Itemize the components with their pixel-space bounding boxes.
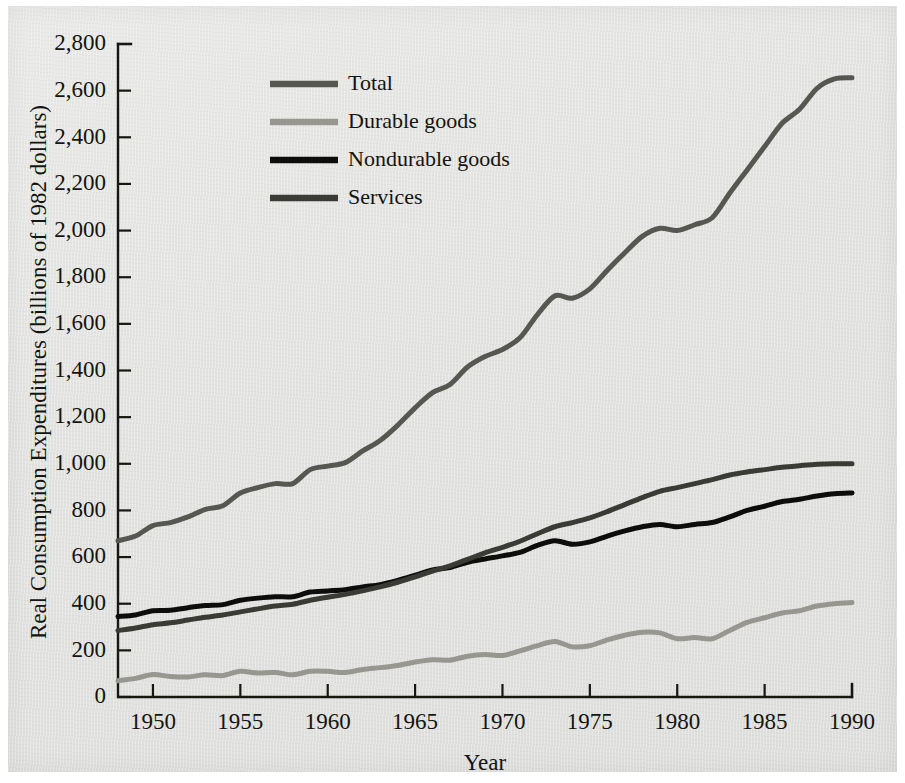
y-tick-label: 0 (95, 683, 107, 708)
x-axis-title: Year (464, 750, 507, 775)
y-tick-label: 1,600 (54, 310, 106, 335)
y-tick-label: 2,600 (54, 77, 106, 102)
y-tick-labels: 02004006008001,0001,2001,4001,6001,8002,… (54, 30, 106, 708)
y-axis-tick-group (118, 44, 131, 697)
legend-label-total: Total (348, 70, 393, 95)
y-tick-label: 2,200 (54, 170, 106, 195)
x-tick-label: 1980 (654, 709, 700, 734)
y-tick-label: 600 (72, 543, 107, 568)
figure-page: 02004006008001,0001,2001,4001,6001,8002,… (0, 0, 905, 783)
x-tick-label: 1970 (479, 709, 525, 734)
y-tick-label: 1,800 (54, 263, 106, 288)
x-tick-label: 1955 (217, 709, 263, 734)
x-axis-tick-group (153, 684, 852, 697)
y-tick-label: 2,400 (54, 124, 106, 149)
axis-lines (118, 44, 852, 697)
x-tick-label: 1965 (392, 709, 438, 734)
y-tick-label: 1,400 (54, 357, 106, 382)
x-tick-label: 1985 (742, 709, 788, 734)
line-chart: 02004006008001,0001,2001,4001,6001,8002,… (0, 0, 905, 783)
x-tick-label: 1960 (305, 709, 351, 734)
y-tick-label: 1,000 (54, 450, 106, 475)
legend-label-services: Services (348, 184, 423, 209)
legend-label-nondurable-goods: Nondurable goods (348, 146, 510, 171)
y-tick-label: 2,800 (54, 30, 106, 55)
x-tick-labels: 195019551960196519701975198019851990 (130, 709, 875, 734)
legend-label-durable-goods: Durable goods (348, 108, 477, 133)
axis-frame (118, 44, 852, 697)
y-tick-label: 200 (72, 637, 107, 662)
y-tick-label: 800 (72, 497, 107, 522)
x-tick-label: 1990 (829, 709, 875, 734)
y-tick-label: 2,000 (54, 217, 106, 242)
x-tick-label: 1950 (130, 709, 176, 734)
y-tick-label: 1,200 (54, 403, 106, 428)
y-axis-title: Real Consumption Expenditures (billions … (26, 105, 51, 639)
chart-legend: TotalDurable goodsNondurable goodsServic… (270, 70, 510, 209)
y-tick-label: 400 (72, 590, 107, 615)
x-tick-label: 1975 (567, 709, 613, 734)
